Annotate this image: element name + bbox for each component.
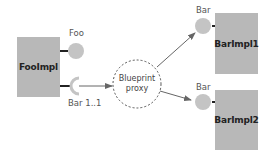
proxy-label-line1: Blueprint [112,74,162,84]
blueprint-proxy-label: Blueprint proxy [112,74,162,94]
arrow-proxy-to-barimpl2 [160,91,191,100]
proxy-label-line2: proxy [112,84,162,94]
bar-reference-label: Bar 1..1 [68,98,101,108]
arrow-proxy-to-barimpl1 [157,33,195,67]
barimpl2-component[interactable]: BarImpl2 [215,90,258,150]
fooimpl-component[interactable]: FooImpl [17,37,60,97]
fooimpl-label: FooImpl [19,62,58,72]
blueprint-diagram: FooImpl BarImpl1 BarImpl2 Foo Bar 1..1 B… [0,0,269,160]
bar-service-2-label: Bar [196,82,211,92]
bar-service-2-ball-icon[interactable] [195,94,211,110]
barimpl2-label: BarImpl2 [214,115,258,125]
bar-service-1-label: Bar [196,5,211,15]
barimpl1-label: BarImpl1 [214,39,258,49]
foo-service-label: Foo [69,28,84,38]
foo-service-ball-icon[interactable] [68,43,84,59]
bar-reference-socket-icon[interactable] [71,78,79,94]
barimpl1-component[interactable]: BarImpl1 [215,13,258,74]
bar-service-1-ball-icon[interactable] [195,18,211,34]
